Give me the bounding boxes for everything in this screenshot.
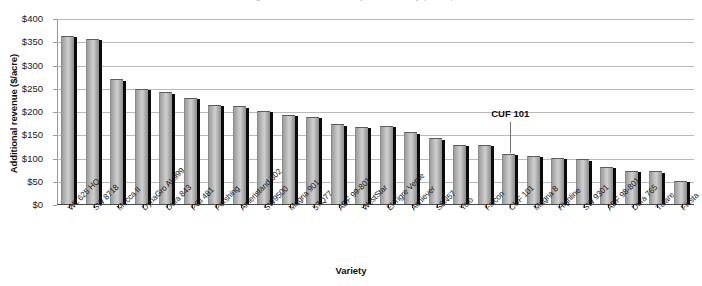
bar[interactable] (233, 19, 246, 204)
chart-container: Figure. Additional revenue by alfalfa va… (0, 0, 702, 286)
bar[interactable] (208, 19, 221, 204)
bar-fill (331, 124, 344, 204)
bar[interactable] (110, 19, 123, 204)
bar[interactable] (600, 19, 613, 204)
bar[interactable] (453, 19, 466, 204)
x-axis-title: Variety (0, 265, 702, 276)
bar-shadow (123, 81, 126, 204)
y-tick-label: $100 (0, 153, 43, 164)
bar-fill (576, 159, 589, 204)
plot-area: $0$50$100$150$200$250$300$350$400 CUF 10… (57, 19, 694, 205)
bar[interactable] (429, 19, 442, 204)
bar-fill (478, 145, 491, 204)
bar[interactable] (576, 19, 589, 204)
bar-shadow (319, 118, 322, 204)
y-tick-label: $400 (0, 13, 43, 24)
y-tick-label: $150 (0, 129, 43, 140)
bar[interactable] (282, 19, 295, 204)
bar[interactable] (184, 19, 197, 204)
y-tick-label: $300 (0, 60, 43, 71)
bar-shadow (74, 37, 77, 204)
bar-shadow (221, 106, 224, 204)
bar[interactable] (306, 19, 319, 204)
bar-shadow (246, 108, 249, 204)
bar-shadow (270, 112, 273, 204)
bar-shadow (344, 126, 347, 204)
bar-shadow (393, 127, 396, 204)
bar-series (57, 19, 694, 204)
y-tick-label: $50 (0, 176, 43, 187)
bar[interactable] (86, 19, 99, 204)
y-tick-label: $200 (0, 106, 43, 117)
x-axis-category-labels: WL 625 HQSW 8718Mecca IIDynaGro AL999Dur… (57, 206, 694, 266)
bar[interactable] (331, 19, 344, 204)
annotation-leader-line (510, 122, 511, 153)
bar[interactable] (674, 19, 687, 204)
y-tick-label: $0 (0, 199, 43, 210)
y-tick-label: $250 (0, 83, 43, 94)
bar[interactable] (61, 19, 74, 204)
bar-shadow (148, 90, 151, 204)
y-tick-label: $350 (0, 36, 43, 47)
annotation-label-cuf-101: CUF 101 (491, 108, 529, 119)
bar[interactable] (380, 19, 393, 204)
bar-shadow (368, 128, 371, 204)
bar-shadow (172, 94, 175, 204)
bar-shadow (99, 40, 102, 204)
bar[interactable] (478, 19, 491, 204)
bar[interactable] (135, 19, 148, 204)
bar[interactable] (551, 19, 564, 204)
cropped-chart-title: Figure. Additional revenue by alfalfa va… (0, 0, 702, 3)
bar-shadow (197, 99, 200, 204)
bar[interactable] (649, 19, 662, 204)
bar-shadow (295, 116, 298, 204)
bar-fill (61, 36, 74, 204)
